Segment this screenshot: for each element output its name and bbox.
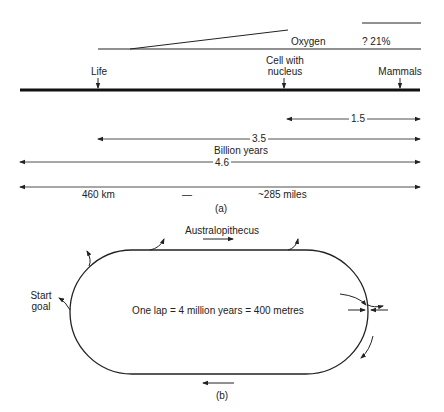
australopithecus-label: Australopithecus bbox=[185, 225, 259, 236]
oxygen-value-label: ? 21% bbox=[362, 36, 390, 47]
start-label-line2: goal bbox=[30, 301, 51, 312]
event-arrows bbox=[98, 78, 400, 88]
span-label-4-6: 4.6 bbox=[213, 157, 231, 168]
diagram-canvas: Oxygen ? 21% Life Cell with nucleus Mamm… bbox=[0, 0, 444, 412]
distance-km-label: 460 km bbox=[82, 189, 115, 200]
start-goal-label: Start goal bbox=[30, 290, 51, 312]
span-label-1-5: 1.5 bbox=[349, 113, 367, 124]
event-label-cell-line2: nucleus bbox=[266, 66, 304, 77]
caption-b: (b) bbox=[216, 390, 228, 401]
distance-miles-label: ~285 miles bbox=[258, 189, 307, 200]
caption-a: (a) bbox=[215, 203, 227, 214]
lap-description: One lap = 4 million years = 400 metres bbox=[132, 305, 304, 316]
span-unit-label: Billion years bbox=[214, 145, 268, 156]
oxygen-label: Oxygen bbox=[291, 36, 325, 47]
event-label-mammals: Mammals bbox=[378, 66, 421, 77]
span-label-3-5: 3.5 bbox=[250, 133, 268, 144]
event-label-cell-nucleus: Cell with nucleus bbox=[266, 55, 304, 77]
event-label-life: Life bbox=[91, 66, 107, 77]
start-label-line1: Start bbox=[30, 290, 51, 301]
distance-dash: — bbox=[182, 189, 192, 200]
event-label-cell-line1: Cell with bbox=[266, 55, 304, 66]
